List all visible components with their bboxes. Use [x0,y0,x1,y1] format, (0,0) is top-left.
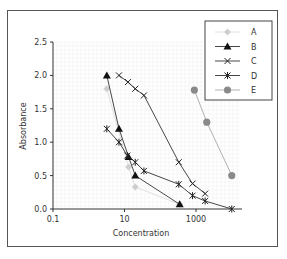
y-tick-label: 0.0 [34,205,47,214]
series-a [103,85,183,208]
y-tick-label: 2.5 [34,38,47,47]
data-point [141,92,147,98]
data-point [131,172,139,179]
y-axis-title: Absorbance [19,102,28,149]
legend: ABCDE [205,21,272,100]
data-point [190,192,196,199]
legend-label: D [251,72,257,81]
y-tick-label: 0.5 [34,172,47,181]
x-tick-label: 0.1 [47,215,60,224]
data-point [228,172,235,179]
x-tick-label: 10 [119,215,129,224]
series-b [103,71,184,207]
y-tick-label: 1.5 [34,105,47,114]
legend-label: B [251,43,257,52]
x-tick-label: 1000 [186,215,206,224]
data-point [202,197,208,204]
legend-label: C [251,57,257,66]
y-axis-ticks: 0.00.51.01.52.02.5 [34,38,53,214]
legend-label: E [251,86,256,95]
data-point [141,167,147,174]
y-tick-label: 1.0 [34,138,47,147]
y-tick-label: 2.0 [34,71,47,80]
data-point [224,86,231,93]
data-point [103,71,111,78]
x-axis-title: Concentration [113,229,170,238]
data-point [191,86,198,93]
chart: 0.00.51.01.52.02.5 0.1101000 Concentrati… [0,0,287,259]
data-point [203,119,210,126]
legend-label: A [251,28,257,37]
x-axis-ticks: 0.1101000 [47,209,207,224]
